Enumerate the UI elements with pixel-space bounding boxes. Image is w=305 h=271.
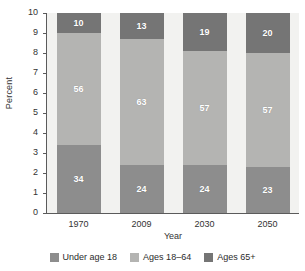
x-axis-title: Year	[47, 231, 299, 241]
y-axis-tick-label: 10	[8, 7, 38, 17]
bar-group[interactable]: 2057232050	[246, 13, 290, 213]
bar-value-label: 56	[73, 85, 83, 94]
y-axis-tick-label: 9	[8, 27, 38, 37]
bar-group[interactable]: 1056341970	[57, 13, 101, 213]
bar-segment[interactable]: 19	[183, 13, 227, 51]
bar-segment[interactable]: 57	[246, 53, 290, 167]
bar-segment[interactable]: 10	[57, 13, 101, 33]
y-axis-tick-label: 5	[8, 107, 38, 117]
legend-swatch	[204, 253, 213, 262]
bar-segment[interactable]: 34	[57, 145, 101, 213]
stacked-bar-chart: Percent 012345678910 1056341970136324200…	[0, 0, 305, 271]
bar-group[interactable]: 1363242009	[120, 13, 164, 213]
chart-legend: Under age 18Ages 18–64Ages 65+	[0, 252, 305, 262]
y-axis-ticks: 012345678910	[0, 13, 47, 213]
bar-value-label: 57	[262, 106, 272, 115]
bar-segment[interactable]: 20	[246, 13, 290, 53]
bar-segment[interactable]: 24	[183, 165, 227, 213]
x-axis-tick-label: 1970	[49, 219, 109, 229]
x-axis-line	[46, 213, 299, 214]
legend-item[interactable]: Ages 65+	[204, 252, 255, 262]
bars-layer: 1056341970136324200919572420302057232050	[47, 13, 299, 213]
legend-item[interactable]: Ages 18–64	[130, 252, 191, 262]
bar-segment[interactable]: 23	[246, 167, 290, 213]
y-axis-tick-label: 4	[8, 127, 38, 137]
x-axis-tick-label: 2050	[238, 219, 298, 229]
legend-swatch	[50, 253, 59, 262]
y-axis-tick-label: 0	[8, 207, 38, 217]
bar-value-label: 10	[73, 19, 83, 28]
legend-item[interactable]: Under age 18	[50, 252, 118, 262]
x-axis-tick-label: 2009	[112, 219, 172, 229]
y-axis-tick-label: 6	[8, 87, 38, 97]
bar-segment[interactable]: 63	[120, 39, 164, 165]
y-axis-tick-label: 7	[8, 67, 38, 77]
bar-value-label: 20	[262, 29, 272, 38]
bar-segment[interactable]: 13	[120, 13, 164, 39]
bar-segment[interactable]: 24	[120, 165, 164, 213]
legend-label: Under age 18	[63, 252, 118, 262]
bar-value-label: 24	[136, 185, 146, 194]
legend-swatch	[130, 253, 139, 262]
bar-value-label: 34	[73, 175, 83, 184]
bar-value-label: 24	[199, 185, 209, 194]
legend-label: Ages 65+	[217, 252, 255, 262]
x-axis-tick-label: 2030	[175, 219, 235, 229]
bar-group[interactable]: 1957242030	[183, 13, 227, 213]
y-axis-tick-label: 8	[8, 47, 38, 57]
bar-value-label: 23	[262, 186, 272, 195]
bar-value-label: 13	[136, 22, 146, 31]
bar-value-label: 19	[199, 28, 209, 37]
bar-value-label: 63	[136, 98, 146, 107]
bar-value-label: 57	[199, 104, 209, 113]
y-axis-tick-label: 1	[8, 187, 38, 197]
bar-segment[interactable]: 56	[57, 33, 101, 145]
y-axis-tick-label: 2	[8, 167, 38, 177]
y-axis-tick-label: 3	[8, 147, 38, 157]
bar-segment[interactable]: 57	[183, 51, 227, 165]
legend-label: Ages 18–64	[143, 252, 191, 262]
